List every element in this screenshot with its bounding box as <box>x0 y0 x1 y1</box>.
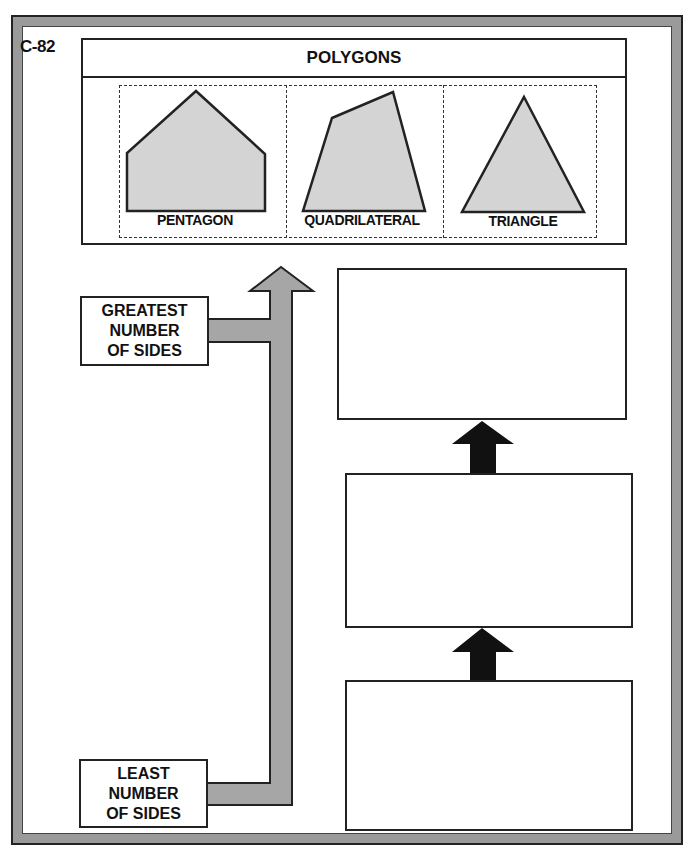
answer-box-bottom[interactable] <box>345 680 633 831</box>
label-line: OF SIDES <box>102 341 188 361</box>
least-sides-label: LEAST NUMBER OF SIDES <box>79 759 208 828</box>
arrow-up-icon <box>452 628 514 680</box>
quadrilateral-shape[interactable] <box>303 92 425 211</box>
arrow-up-icon <box>452 421 514 473</box>
scale-arrow-icon <box>207 267 313 805</box>
label-line: OF SIDES <box>106 804 181 824</box>
pentagon-label: PENTAGON <box>125 212 265 228</box>
greatest-sides-label: GREATEST NUMBER OF SIDES <box>80 296 209 366</box>
triangle-shape[interactable] <box>462 97 584 212</box>
answer-box-middle[interactable] <box>345 473 633 628</box>
answer-box-top[interactable] <box>337 268 627 420</box>
triangle-label: TRIANGLE <box>456 213 590 229</box>
label-line: GREATEST <box>102 301 188 321</box>
quadrilateral-label: QUADRILATERAL <box>291 212 433 228</box>
label-line: NUMBER <box>106 784 181 804</box>
label-line: LEAST <box>106 764 181 784</box>
label-line: NUMBER <box>102 321 188 341</box>
pentagon-shape[interactable] <box>127 91 265 211</box>
